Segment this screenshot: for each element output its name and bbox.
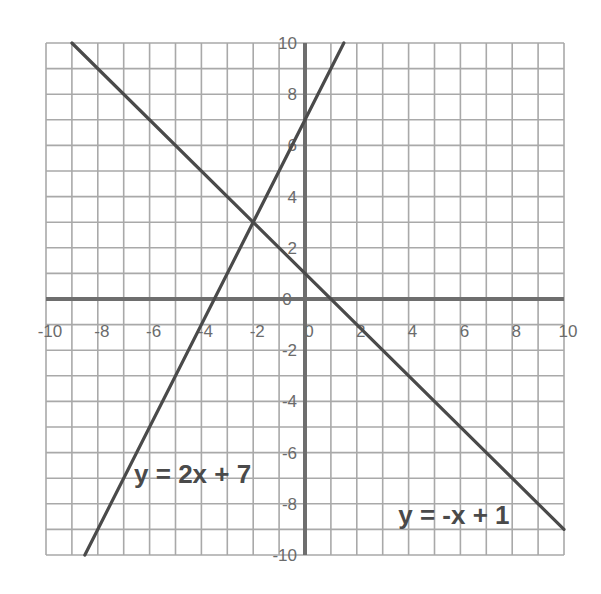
coordinate-plane-chart: -10-8-6-4-202468101086420-2-4-6-8-10 y =… — [0, 0, 601, 594]
x-tick-label: -10 — [38, 322, 63, 341]
y-tick-label: -6 — [282, 444, 297, 463]
x-tick-label: -8 — [94, 322, 109, 341]
equation-label-1: y = 2x + 7 — [134, 459, 251, 489]
x-tick-label: 10 — [559, 322, 578, 341]
series-line-2 — [72, 43, 564, 529]
equation-label-2: y = -x + 1 — [398, 500, 509, 530]
y-tick-label: -10 — [272, 546, 297, 565]
x-tick-label: 4 — [408, 322, 417, 341]
y-tick-label: 2 — [288, 239, 297, 258]
x-tick-label: -2 — [250, 322, 265, 341]
x-tick-label: 6 — [460, 322, 469, 341]
y-tick-label: 8 — [288, 85, 297, 104]
x-tick-label: 0 — [304, 322, 313, 341]
y-tick-label: -4 — [282, 392, 297, 411]
equation-labels: y = 2x + 7y = -x + 1 — [134, 459, 509, 530]
y-tick-label: 0 — [282, 290, 291, 309]
x-tick-label: -6 — [146, 322, 161, 341]
x-tick-label: 8 — [511, 322, 520, 341]
y-tick-label: 10 — [278, 34, 297, 53]
y-tick-label: 4 — [288, 188, 297, 207]
y-tick-label: -2 — [282, 341, 297, 360]
y-tick-label: -8 — [282, 495, 297, 514]
